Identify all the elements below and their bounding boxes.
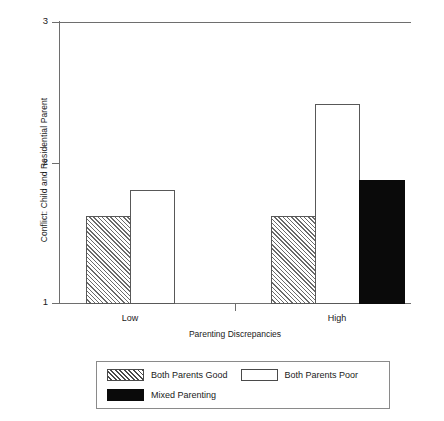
bar-chart-figure: Conflict: Child and Residential Parent 3…	[0, 0, 444, 421]
legend-entry-both-parents-poor: Both Parents Poor	[241, 369, 359, 381]
y-tick-label-1: 1	[28, 297, 48, 307]
legend-label-both-parents-poor: Both Parents Poor	[285, 370, 359, 380]
legend-swatch-hatched-icon	[107, 369, 144, 381]
legend-label-both-parents-good: Both Parents Good	[151, 370, 228, 380]
x-tick-mark-mid	[235, 304, 236, 311]
legend-entry-mixed-parenting: Mixed Parenting	[107, 389, 216, 401]
x-tick-label-low: Low	[85, 313, 175, 323]
bar-low-both-parents-good	[86, 216, 131, 304]
y-tick-mark-1	[52, 303, 60, 304]
bar-low-both-parents-poor	[130, 190, 175, 304]
plot-top-border	[59, 22, 411, 23]
legend-entry-both-parents-good: Both Parents Good	[107, 369, 228, 381]
bar-high-mixed-parenting	[359, 180, 405, 304]
legend-row-second: Mixed Parenting	[107, 389, 229, 401]
y-axis-label: Conflict: Child and Residential Parent	[39, 40, 49, 300]
y-tick-mark-3	[52, 22, 60, 23]
y-tick-label-2: 2	[28, 157, 48, 167]
legend-swatch-open-icon	[241, 369, 278, 381]
y-tick-label-3: 3	[28, 16, 48, 26]
bar-high-both-parents-good	[271, 216, 316, 304]
x-axis-label: Parenting Discrepancies	[59, 329, 411, 339]
y-tick-mark-2	[52, 163, 60, 164]
legend-label-mixed-parenting: Mixed Parenting	[151, 390, 216, 400]
chart-legend: Both Parents Good Both Parents Poor Mixe…	[96, 361, 390, 409]
x-tick-label-high: High	[292, 313, 382, 323]
bar-high-both-parents-poor	[315, 104, 360, 304]
legend-swatch-solid-icon	[107, 389, 144, 401]
legend-row-first: Both Parents Good Both Parents Poor	[107, 369, 371, 381]
